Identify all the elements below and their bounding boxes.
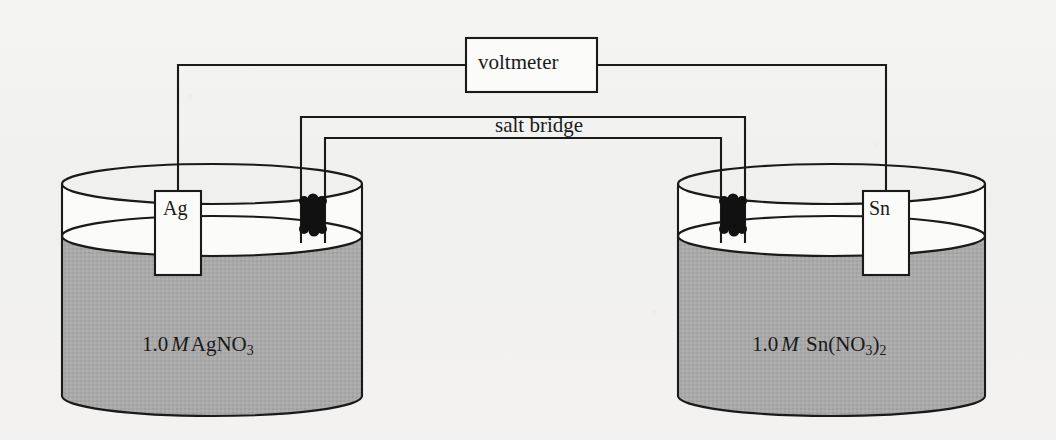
right-solution-label: 1.0M Sn(NO3)2 — [752, 334, 886, 358]
left-solution-molarity-symbol: M — [168, 332, 191, 356]
salt-bridge-label: salt bridge — [495, 115, 583, 136]
silver-electrode-label: Ag — [163, 198, 187, 218]
left-solution-concentration: 1.0 — [142, 332, 168, 356]
tin-electrode-label: Sn — [869, 198, 890, 218]
right-solution-formula: Sn(NO — [806, 332, 866, 356]
left-solution-label: 1.0MAgNO3 — [142, 334, 254, 358]
right-solution-body — [678, 236, 985, 416]
salt-bridge-inner-wall — [325, 138, 721, 243]
salt-bridge-right-plug — [719, 194, 747, 237]
right-solution-subscript-2: 2 — [879, 343, 886, 358]
left-wire — [178, 65, 466, 191]
left-solution-subscript-1: 3 — [247, 343, 254, 358]
right-solution-concentration: 1.0 — [752, 332, 778, 356]
salt-bridge-left-plug — [299, 194, 327, 237]
left-solution-body — [62, 236, 362, 416]
diagram-canvas: voltmeter salt bridge Ag Sn 1.0MAgNO3 1.… — [0, 0, 1056, 440]
left-solution-formula: AgNO — [191, 332, 247, 356]
right-wire — [597, 65, 886, 191]
voltmeter-label: voltmeter — [478, 52, 558, 73]
right-solution-molarity-symbol: M — [778, 332, 801, 356]
